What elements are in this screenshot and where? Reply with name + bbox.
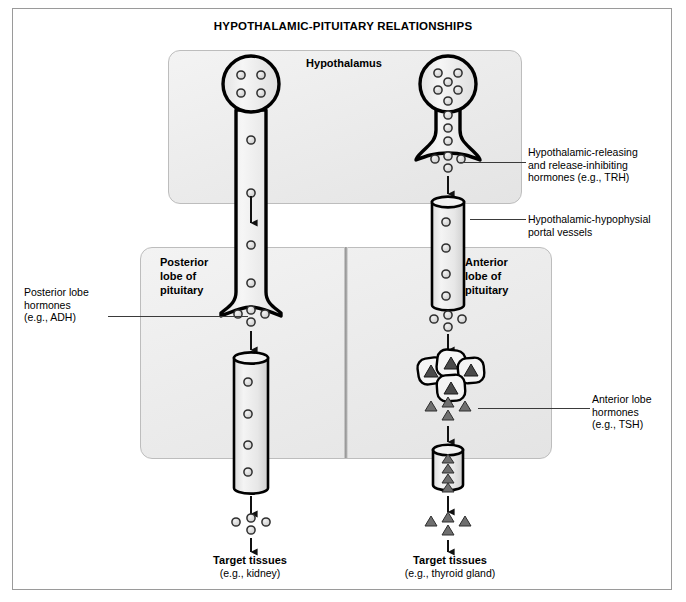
callout-anterior-line2: hormones xyxy=(592,406,684,419)
anterior-vessel xyxy=(433,445,463,492)
portal-exit-granules xyxy=(430,311,466,331)
leader-line-portal-vessels xyxy=(470,219,526,220)
target-left-title: Target tissues xyxy=(160,554,340,567)
posterior-neuron xyxy=(221,56,281,316)
callout-anterior-line3: (e.g., TSH) xyxy=(592,418,684,431)
target-right-title: Target tissues xyxy=(350,554,550,567)
callout-releasing-line2: and release-inhibiting xyxy=(528,159,684,172)
anterior-secretory-cells xyxy=(416,349,485,402)
callout-releasing-hormones: Hypothalamic-releasing and release-inhib… xyxy=(528,146,684,184)
callout-releasing-line1: Hypothalamic-releasing xyxy=(528,146,684,159)
callout-posterior-hormones: Posterior lobe hormones (e.g., ADH) xyxy=(24,286,174,324)
target-right-sub: (e.g., thyroid gland) xyxy=(350,567,550,580)
target-left-sub: (e.g., kidney) xyxy=(160,567,340,580)
leader-line-releasing-hormones xyxy=(460,162,526,163)
secretory-cell xyxy=(436,374,466,402)
target-tissue-right: Target tissues (e.g., thyroid gland) xyxy=(350,554,550,580)
posterior-neuron-soma xyxy=(223,56,279,112)
callout-releasing-line3: hormones (e.g., TRH) xyxy=(528,171,684,184)
anterior-hormone-triangles xyxy=(425,397,471,420)
callout-anterior-hormones: Anterior lobe hormones (e.g., TSH) xyxy=(592,393,684,431)
callout-anterior-line1: Anterior lobe xyxy=(592,393,684,406)
posterior-target-granules xyxy=(232,514,270,534)
posterior-vessel xyxy=(234,352,268,493)
callout-portal-line2: portal vessels xyxy=(528,226,684,239)
callout-posterior-line2: hormones xyxy=(24,299,174,312)
leader-line-anterior-hormones xyxy=(478,408,590,409)
callout-portal-line1: Hypothalamic-hypophysial xyxy=(528,213,684,226)
portal-vessel xyxy=(432,197,464,311)
anterior-target-triangles xyxy=(425,512,471,535)
callout-posterior-line3: (e.g., ADH) xyxy=(24,311,174,324)
callout-posterior-line1: Posterior lobe xyxy=(24,286,174,299)
anterior-axon-granules xyxy=(444,111,452,145)
target-tissue-left: Target tissues (e.g., kidney) xyxy=(160,554,340,580)
callout-portal-vessels: Hypothalamic-hypophysial portal vessels xyxy=(528,213,684,238)
figure-root: HYPOTHALAMIC-PITUITARY RELATIONSHIPS Hyp… xyxy=(0,0,686,602)
